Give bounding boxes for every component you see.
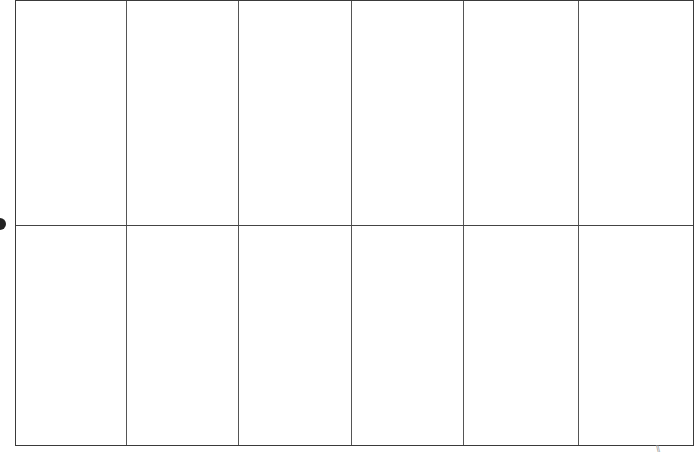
row-divider <box>16 225 693 226</box>
column-divider-5 <box>578 1 579 445</box>
column-divider-1 <box>126 1 127 445</box>
blank-grid-table <box>15 0 694 446</box>
left-edge-marker <box>0 218 6 230</box>
corner-mark: \\ <box>656 444 659 452</box>
column-divider-2 <box>238 1 239 445</box>
column-divider-3 <box>351 1 352 445</box>
column-divider-4 <box>463 1 464 445</box>
